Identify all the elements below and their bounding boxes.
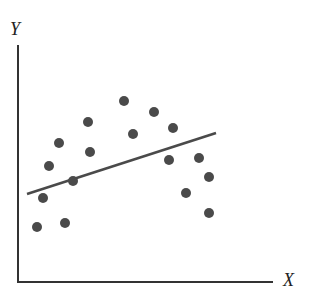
data-point [164,155,174,165]
x-axis-label: X [283,270,294,291]
data-point [38,193,48,203]
data-point [194,153,204,163]
data-point [204,208,214,218]
scatter-chart [0,0,312,302]
data-point [32,222,42,232]
data-point [60,218,70,228]
data-point [119,96,129,106]
data-point [204,172,214,182]
data-point [83,117,93,127]
data-point [149,107,159,117]
data-point [44,161,54,171]
data-point [128,129,138,139]
y-axis-label: Y [10,19,20,40]
data-point [181,188,191,198]
data-point [168,123,178,133]
data-point [68,176,78,186]
data-point [54,138,64,148]
data-point [85,147,95,157]
